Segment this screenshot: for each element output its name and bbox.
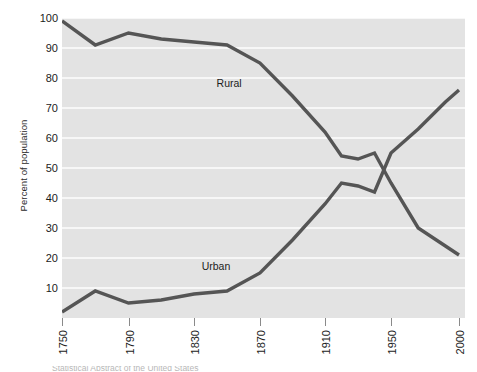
x-axis-tick-label: 1870 <box>255 330 267 354</box>
y-axis-tick-label: 50 <box>32 163 58 174</box>
y-axis-tick-label: 60 <box>32 133 58 144</box>
x-axis-tick-mark <box>459 318 460 326</box>
x-axis-tick-labels: 1750179018301870191019502000 <box>0 318 477 372</box>
series-label-rural: Rural <box>217 77 242 89</box>
y-axis-tick-label: 10 <box>32 283 58 294</box>
x-axis-tick-label: 1830 <box>189 330 201 354</box>
x-axis-tick-mark <box>194 318 195 326</box>
y-axis-title: Percent of population <box>18 91 29 241</box>
x-axis-tick-label: 2000 <box>454 330 466 354</box>
x-axis-tick-mark <box>129 318 130 326</box>
y-axis-tick-label: 30 <box>32 223 58 234</box>
x-axis-tick-label: 1950 <box>386 330 398 354</box>
series-lines <box>62 18 465 318</box>
y-axis-tick-label: 80 <box>32 73 58 84</box>
y-axis-tick-labels: 102030405060708090100 <box>30 0 58 372</box>
x-axis-tick-mark <box>260 318 261 326</box>
y-axis-tick-label: 90 <box>32 43 58 54</box>
x-axis-tick-mark <box>62 318 63 326</box>
y-axis-tick-label: 40 <box>32 193 58 204</box>
plot-area: Rural Urban <box>62 18 465 318</box>
x-axis-tick-label: 1910 <box>320 330 332 354</box>
x-axis-tick-mark <box>325 318 326 326</box>
caption-strip: Statistical Abstract of the United State… <box>0 366 477 372</box>
x-axis-tick-label: 1790 <box>124 330 136 354</box>
x-axis-tick-label: 1750 <box>57 330 69 354</box>
y-axis-tick-label: 100 <box>32 13 58 24</box>
caption-text: Statistical Abstract of the United State… <box>52 366 198 372</box>
series-line-urban <box>62 90 459 312</box>
y-axis-tick-label: 20 <box>32 253 58 264</box>
series-line-rural <box>62 21 459 255</box>
series-label-urban: Urban <box>202 260 231 272</box>
chart-container: Percent of population 102030405060708090… <box>0 0 477 372</box>
y-axis-tick-label: 70 <box>32 103 58 114</box>
x-axis-tick-mark <box>391 318 392 326</box>
